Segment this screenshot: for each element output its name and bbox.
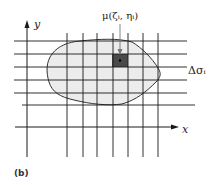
x-axis-arrow-icon bbox=[171, 125, 179, 130]
diagram-figure: y x μ(ζᵢ, ηᵢ) Δσᵢ (b) bbox=[0, 0, 217, 185]
element-label: Δσᵢ bbox=[188, 64, 206, 77]
x-axis-label: x bbox=[182, 123, 189, 136]
point-label: μ(ζᵢ, ηᵢ) bbox=[102, 10, 138, 21]
panel-label: (b) bbox=[14, 168, 29, 178]
y-axis-label: y bbox=[33, 18, 41, 31]
sample-point-icon bbox=[119, 59, 121, 61]
y-axis-arrow-icon bbox=[25, 20, 30, 28]
